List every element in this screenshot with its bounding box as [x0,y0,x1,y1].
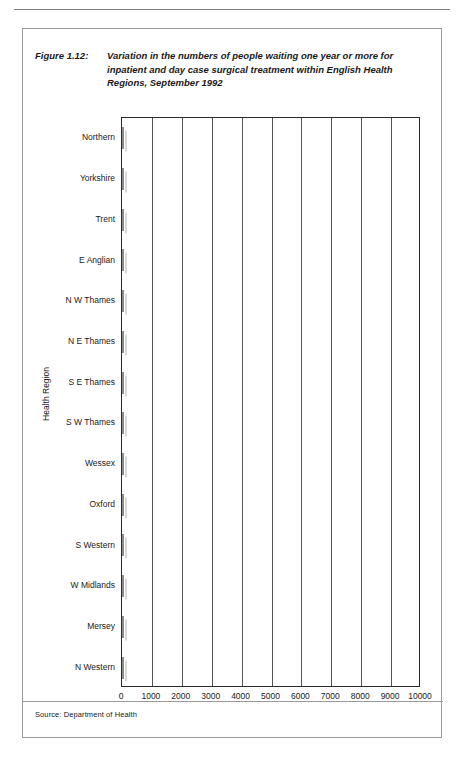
x-tick-label: 9000 [381,691,400,701]
y-tick-label: Yorkshire [23,172,115,184]
bar-s-e-thames [122,372,361,394]
bar-w-midlands [122,575,310,597]
bar-fill [122,453,124,475]
x-tick-label: 7000 [321,691,340,701]
bar-row [122,607,419,648]
y-tick-label: E Anglian [23,254,115,266]
bar-fill [122,575,124,597]
bar-trent [122,209,424,231]
bar-row [122,362,419,403]
figure-number: Figure 1.12: [35,49,107,63]
y-tick-label: S Western [23,539,115,551]
bar-fill [122,616,124,638]
x-tick-label: 6000 [291,691,310,701]
x-tick-label: 1000 [141,691,160,701]
bar-mersey [122,616,152,638]
figure-title: Variation in the numbers of people waiti… [107,49,431,90]
bar-fill [122,494,124,516]
bar-fill [122,249,124,271]
bar-row [122,118,419,159]
bar-row [122,322,419,363]
y-axis-tick-labels: NorthernYorkshireTrentE AnglianN W Thame… [23,117,115,687]
bar-series [122,118,419,686]
bar-n-w-thames [122,290,277,312]
bar-row [122,525,419,566]
x-tick-label: 4000 [231,691,250,701]
source-rule [23,701,443,702]
bar-fill [122,290,124,312]
y-tick-label: S W Thames [23,416,115,428]
y-tick-label: N Western [23,661,115,673]
y-tick-label: Oxford [23,498,115,510]
bar-fill [122,534,124,556]
bar-fill [122,331,124,353]
bar-row [122,647,419,688]
bar-row [122,240,419,281]
bar-s-w-thames [122,412,224,434]
bar-e-anglian [122,249,210,271]
figure-frame: Figure 1.12: Variation in the numbers of… [22,28,442,738]
bar-row [122,403,419,444]
y-tick-label: S E Thames [23,376,115,388]
bar-fill [122,127,124,149]
bar-row [122,281,419,322]
bar-fill [122,168,124,190]
y-tick-label: N W Thames [23,294,115,306]
plot-area [121,117,420,687]
chart-area: Health Region NorthernYorkshireTrentE An… [23,89,443,729]
bar-northern [122,127,263,149]
x-tick-label: 2000 [171,691,190,701]
x-tick-label: 8000 [351,691,370,701]
x-tick-label: 0 [119,691,124,701]
bar-row [122,444,419,485]
x-tick-label: 5000 [261,691,280,701]
bar-n-e-thames [122,331,376,353]
figure-caption: Figure 1.12: Variation in the numbers of… [35,49,431,90]
bar-fill [122,209,124,231]
bar-oxford [122,494,266,516]
source-note: Source: Department of Health [35,710,137,719]
bar-fill [122,657,124,679]
y-tick-label: W Midlands [23,579,115,591]
bar-row [122,566,419,607]
page-top-rule [14,9,450,10]
x-tick-label: 3000 [201,691,220,701]
x-axis-tick-labels: 0100020003000400050006000700080009000100… [121,691,420,707]
y-tick-label: Wessex [23,457,115,469]
y-tick-label: N E Thames [23,335,115,347]
y-tick-label: Trent [23,213,115,225]
bar-s-western [122,534,230,556]
x-tick-label: 10000 [408,691,432,701]
bar-row [122,484,419,525]
bar-yorkshire [122,168,337,190]
bar-row [122,159,419,200]
bar-n-western [122,657,358,679]
y-tick-label: Mersey [23,620,115,632]
bar-row [122,199,419,240]
bar-wessex [122,453,243,475]
y-tick-label: Northern [23,131,115,143]
bar-fill [122,412,124,434]
bar-fill [122,372,124,394]
